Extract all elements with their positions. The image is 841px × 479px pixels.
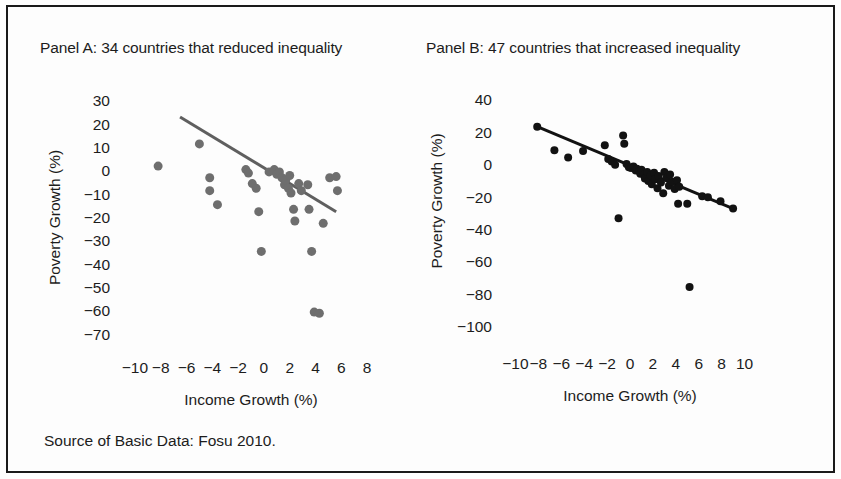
y-tick-label: −20 bbox=[466, 189, 493, 206]
panel-b-plot: 40200−20−40−60−80−100−10−8−6−4−20246810I… bbox=[416, 61, 816, 411]
data-point bbox=[533, 123, 541, 131]
x-tick-label: 6 bbox=[337, 359, 346, 376]
y-tick-label: −50 bbox=[84, 279, 111, 296]
y-tick-label: −70 bbox=[84, 326, 111, 343]
y-tick-label: −60 bbox=[84, 302, 111, 319]
x-tick-label: 0 bbox=[260, 359, 269, 376]
x-tick-label: 8 bbox=[717, 355, 726, 372]
data-point bbox=[289, 205, 298, 214]
y-tick-label: 30 bbox=[93, 92, 111, 109]
y-tick-label: −30 bbox=[84, 232, 111, 249]
data-point bbox=[205, 186, 214, 195]
data-point bbox=[332, 172, 341, 181]
data-point bbox=[579, 147, 587, 155]
data-point bbox=[659, 189, 667, 197]
x-tick-label: 4 bbox=[311, 359, 320, 376]
data-point bbox=[254, 207, 263, 216]
data-point bbox=[205, 173, 214, 182]
data-point bbox=[257, 247, 266, 256]
data-point bbox=[333, 186, 342, 195]
y-tick-label: 40 bbox=[475, 91, 493, 108]
y-tick-label: 0 bbox=[483, 156, 492, 173]
x-tick-label: −10 bbox=[502, 355, 529, 372]
y-axis-title: Poverty Growth (%) bbox=[428, 133, 445, 268]
data-point bbox=[305, 205, 314, 214]
data-point bbox=[154, 162, 163, 171]
x-tick-label: −8 bbox=[530, 355, 548, 372]
figure-border: Panel A: 34 countries that reduced inequ… bbox=[6, 5, 835, 473]
x-axis-title: Income Growth (%) bbox=[184, 391, 318, 408]
data-point bbox=[315, 309, 324, 318]
y-tick-label: −10 bbox=[84, 186, 111, 203]
x-tick-label: 4 bbox=[672, 355, 681, 372]
y-tick-label: 0 bbox=[101, 162, 110, 179]
panel-a-plot: 3020100−10−20−30−40−50−60−70−10−8−6−4−20… bbox=[30, 61, 430, 411]
data-point bbox=[290, 217, 299, 226]
data-point bbox=[716, 197, 724, 205]
panel-a: Panel A: 34 countries that reduced inequ… bbox=[30, 25, 430, 415]
y-tick-label: 20 bbox=[93, 116, 111, 133]
data-point bbox=[252, 184, 261, 193]
y-tick-label: −100 bbox=[457, 318, 492, 335]
data-point bbox=[550, 146, 558, 154]
x-tick-label: 0 bbox=[626, 355, 635, 372]
data-point bbox=[620, 140, 628, 148]
panel-b-title: Panel B: 47 countries that increased ine… bbox=[426, 39, 740, 57]
source-note: Source of Basic Data: Fosu 2010. bbox=[44, 432, 276, 450]
x-tick-label: −4 bbox=[203, 359, 221, 376]
figure-container: Panel A: 34 countries that reduced inequ… bbox=[0, 0, 841, 479]
data-point bbox=[307, 247, 316, 256]
x-tick-label: −2 bbox=[598, 355, 616, 372]
data-point bbox=[285, 171, 294, 180]
y-tick-label: 10 bbox=[93, 139, 111, 156]
data-point bbox=[615, 214, 623, 222]
y-tick-label: −40 bbox=[84, 256, 111, 273]
data-point bbox=[564, 153, 572, 161]
data-point bbox=[303, 180, 312, 189]
data-point bbox=[244, 169, 253, 178]
trend-line bbox=[180, 117, 336, 212]
x-tick-label: −8 bbox=[152, 359, 170, 376]
y-axis-title: Poverty Growth (%) bbox=[46, 150, 63, 285]
data-point bbox=[619, 132, 627, 140]
data-point bbox=[666, 170, 674, 178]
data-point bbox=[213, 200, 222, 209]
data-point bbox=[704, 193, 712, 201]
y-tick-label: −40 bbox=[466, 221, 493, 238]
x-axis-title: Income Growth (%) bbox=[563, 387, 697, 404]
data-point bbox=[611, 161, 619, 169]
y-tick-label: −60 bbox=[466, 253, 493, 270]
x-tick-label: −2 bbox=[229, 359, 247, 376]
panel-a-title: Panel A: 34 countries that reduced inequ… bbox=[40, 39, 342, 57]
data-point bbox=[601, 141, 609, 149]
data-point bbox=[675, 183, 683, 191]
y-tick-label: −80 bbox=[466, 286, 493, 303]
y-tick-label: 20 bbox=[475, 124, 493, 141]
x-tick-label: −6 bbox=[178, 359, 196, 376]
data-point bbox=[319, 219, 328, 228]
x-tick-label: 10 bbox=[736, 355, 754, 372]
x-tick-label: 6 bbox=[694, 355, 703, 372]
x-tick-label: −10 bbox=[122, 359, 149, 376]
y-tick-label: −20 bbox=[84, 209, 111, 226]
x-tick-label: −4 bbox=[575, 355, 593, 372]
data-point bbox=[686, 283, 694, 291]
x-tick-label: 2 bbox=[285, 359, 294, 376]
data-point bbox=[683, 200, 691, 208]
panel-b: Panel B: 47 countries that increased ine… bbox=[416, 25, 816, 415]
data-point bbox=[729, 205, 737, 213]
data-point bbox=[286, 188, 295, 197]
x-tick-label: 8 bbox=[363, 359, 372, 376]
data-point bbox=[195, 139, 204, 148]
x-tick-label: −6 bbox=[552, 355, 570, 372]
x-tick-label: 2 bbox=[649, 355, 658, 372]
data-point bbox=[674, 200, 682, 208]
